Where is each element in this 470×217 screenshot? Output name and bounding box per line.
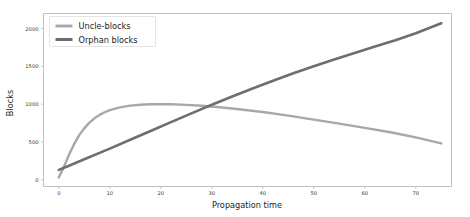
x-axis-title: Propagation time (212, 200, 282, 210)
x-tick-label: 70 (412, 190, 419, 196)
x-tick-label: 30 (208, 190, 215, 196)
y-tick-label: 500 (29, 139, 39, 145)
y-axis-title: Blocks (5, 90, 15, 116)
chart-legend: Uncle-blocksOrphan blocks (50, 17, 156, 47)
y-tick-label: 1000 (25, 101, 38, 107)
x-tick-label: 0 (57, 190, 60, 196)
x-tick-label: 10 (106, 190, 113, 196)
series-line-1 (59, 104, 442, 177)
line-chart: 0102030405060700500100015002000 Uncle-bl… (0, 0, 470, 217)
chart-figure: 0102030405060700500100015002000 Uncle-bl… (0, 0, 470, 217)
x-tick-label: 40 (259, 190, 266, 196)
legend-label-1: Uncle-blocks (79, 21, 131, 31)
x-tick-label: 50 (310, 190, 317, 196)
y-tick-label: 1500 (25, 63, 38, 69)
y-tick-label: 0 (35, 177, 38, 183)
x-tick-label: 60 (361, 190, 368, 196)
legend-label-2: Orphan blocks (79, 35, 138, 45)
y-tick-label: 2000 (25, 26, 38, 32)
x-tick-label: 20 (157, 190, 164, 196)
